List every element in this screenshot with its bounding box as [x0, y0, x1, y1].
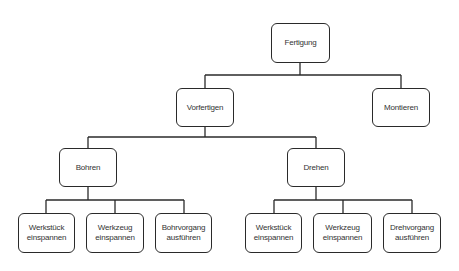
node-label: Werkstück einspannen [254, 223, 293, 243]
node-label: Bohrvorgang ausführen [162, 223, 206, 243]
node-label: Werkstück einspannen [27, 223, 66, 243]
node-drehvorgang-ausfuehren: Drehvorgang ausführen [383, 213, 441, 253]
node-label: Bohren [76, 163, 101, 173]
node-bohrvorgang-ausfuehren: Bohrvorgang ausführen [155, 213, 212, 253]
node-bohren-werkzeug-einspannen: Werkzeug einspannen [86, 213, 144, 253]
node-label: Montieren [384, 103, 418, 113]
node-label: Drehen [303, 163, 328, 173]
node-vorfertigen: Vorfertigen [176, 88, 234, 127]
node-drehen: Drehen [287, 148, 345, 187]
node-bohren-werkstueck-einspannen: Werkstück einspannen [18, 213, 75, 253]
node-label: Vorfertigen [187, 103, 224, 113]
node-montieren: Montieren [372, 88, 430, 127]
node-label: Werkzeug einspannen [95, 223, 134, 243]
node-fertigung: Fertigung [271, 23, 330, 63]
process-tree-diagram: Fertigung Vorfertigen Montieren Bohren D… [0, 0, 459, 271]
node-drehen-werkzeug-einspannen: Werkzeug einspannen [313, 213, 372, 253]
node-drehen-werkstueck-einspannen: Werkstück einspannen [245, 213, 302, 253]
node-bohren: Bohren [59, 148, 117, 187]
node-label: Fertigung [285, 38, 317, 48]
node-label: Werkzeug einspannen [323, 223, 362, 243]
node-label: Drehvorgang ausführen [390, 223, 434, 243]
